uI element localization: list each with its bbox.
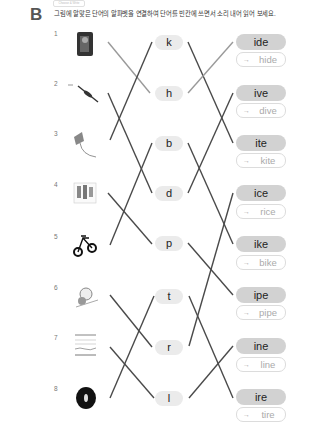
letter-h[interactable]: h <box>155 86 183 101</box>
answer-field-bike[interactable]: →bike <box>236 255 286 270</box>
line-k-ite <box>188 42 233 143</box>
ending-ire[interactable]: ire <box>236 389 286 405</box>
letter-r[interactable]: r <box>155 340 183 355</box>
ending-ice[interactable]: ice <box>236 185 286 201</box>
answer-field-line[interactable]: →line <box>236 357 286 372</box>
line-picture-icon <box>74 333 98 359</box>
tire-picture-icon <box>75 386 97 410</box>
letter-b[interactable]: b <box>155 136 183 151</box>
answer-field-kite[interactable]: →kite <box>236 153 286 168</box>
answer-text: line <box>255 358 281 371</box>
hide-picture-icon <box>76 31 94 57</box>
arrow-icon: → <box>243 205 250 218</box>
item-number: 6 <box>54 284 58 291</box>
line-5-b <box>110 143 152 245</box>
ending-ike[interactable]: ike <box>236 236 286 252</box>
ending-ine[interactable]: ine <box>236 338 286 354</box>
line-r-ice <box>189 193 233 346</box>
line-l-ine <box>189 346 233 398</box>
line-1-h <box>108 42 150 93</box>
answer-field-hide[interactable]: →hide <box>236 52 286 67</box>
item-number: 8 <box>54 385 58 392</box>
line-7-l <box>110 347 154 398</box>
arrow-icon: → <box>243 256 250 269</box>
letter-l[interactable]: l <box>155 391 183 406</box>
line-6-r <box>110 295 152 347</box>
answer-text: tire <box>255 408 281 421</box>
answer-field-dive[interactable]: →dive <box>236 103 286 118</box>
arrow-icon: → <box>243 154 250 167</box>
answer-text: kite <box>255 154 281 167</box>
answer-field-tire[interactable]: →tire <box>236 407 286 422</box>
line-t-ire <box>189 296 233 398</box>
ending-ite[interactable]: ite <box>236 135 286 151</box>
line-h-ide <box>188 42 233 93</box>
bike-picture-icon <box>73 234 97 258</box>
line-3-k <box>110 42 152 140</box>
line-b-ike <box>188 143 233 244</box>
item-number: 3 <box>54 130 58 137</box>
answer-text: rice <box>255 205 281 218</box>
answer-text: hide <box>255 53 281 66</box>
item-number: 5 <box>54 233 58 240</box>
ending-ide[interactable]: ide <box>236 34 286 50</box>
letter-k[interactable]: k <box>155 35 183 50</box>
item-number: 2 <box>54 80 58 87</box>
dive-picture-icon <box>68 82 100 104</box>
pipe-picture-icon <box>74 286 100 308</box>
line-4-p <box>108 193 152 244</box>
arrow-icon: → <box>243 408 250 421</box>
answer-text: dive <box>255 104 281 117</box>
letter-t[interactable]: t <box>155 289 183 304</box>
answer-field-pipe[interactable]: →pipe <box>236 305 286 320</box>
item-number: 4 <box>54 181 58 188</box>
letter-d[interactable]: d <box>155 186 183 201</box>
arrow-icon: → <box>243 358 250 371</box>
item-number: 7 <box>54 334 58 341</box>
letter-p[interactable]: p <box>155 236 183 251</box>
arrow-icon: → <box>243 104 250 117</box>
rice-picture-icon <box>73 182 97 204</box>
answer-text: pipe <box>255 306 281 319</box>
item-number: 1 <box>54 30 58 37</box>
line-8-t <box>110 296 154 398</box>
answer-text: bike <box>255 256 281 269</box>
arrow-icon: → <box>243 53 250 66</box>
ending-ive[interactable]: ive <box>236 85 286 101</box>
ending-ipe[interactable]: ipe <box>236 287 286 303</box>
answer-field-rice[interactable]: →rice <box>236 204 286 219</box>
kite-picture-icon <box>70 131 100 161</box>
arrow-icon: → <box>243 306 250 319</box>
line-2-d <box>108 93 152 193</box>
line-d-ive <box>188 93 233 193</box>
